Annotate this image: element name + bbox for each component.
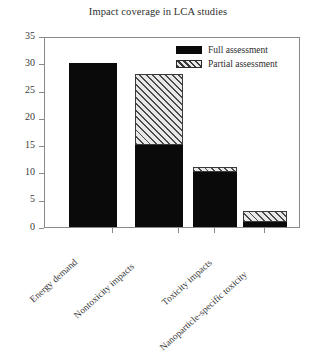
y-tick-label: 35 xyxy=(5,30,35,41)
y-tick-label: 25 xyxy=(5,84,35,95)
bar-energy-demand[interactable] xyxy=(69,63,117,227)
legend-item-full-assessment[interactable]: Full assessment xyxy=(176,43,277,57)
y-tick-label: 0 xyxy=(5,221,35,232)
legend-label: Full assessment xyxy=(208,45,268,55)
y-tick-label: 30 xyxy=(5,57,35,68)
bar-toxicity-impacts[interactable] xyxy=(193,167,237,227)
bar-nontoxicity-impacts[interactable] xyxy=(135,74,183,227)
y-tick-label: 20 xyxy=(5,111,35,122)
y-tick-label: 5 xyxy=(5,193,35,204)
x-tick-mark-1 xyxy=(112,228,113,233)
x-label-nanoparticle-specific-toxicity: Nanoparticle-specific toxicity xyxy=(158,269,249,352)
bar-segment-full[interactable] xyxy=(193,172,237,227)
x-label-nontoxicity-impacts: Nontoxicity impacts xyxy=(72,261,136,320)
legend-item-partial-assessment[interactable]: Partial assessment xyxy=(176,57,277,71)
y-tick-mark xyxy=(39,228,44,229)
x-label-toxicity-impacts: Toxicity impacts xyxy=(160,258,214,308)
bar-nanoparticle-specific-toxicity[interactable] xyxy=(243,211,287,227)
legend-label: Partial assessment xyxy=(208,59,277,69)
chart-title: Impact coverage in LCA studies xyxy=(0,6,316,17)
x-tick-mark-3 xyxy=(214,228,215,233)
legend: Full assessment Partial assessment xyxy=(176,43,277,71)
y-tick-label: 15 xyxy=(5,139,35,150)
bar-segment-partial[interactable] xyxy=(193,167,237,172)
bar-segment-full[interactable] xyxy=(135,145,183,227)
hatched-swatch-icon xyxy=(176,60,202,68)
x-tick-mark-2 xyxy=(178,228,179,233)
solid-black-swatch-icon xyxy=(176,46,202,54)
bar-segment-full[interactable] xyxy=(69,63,117,227)
bar-segment-partial[interactable] xyxy=(243,211,287,222)
y-axis: 35 30 25 20 15 10 5 0 xyxy=(0,37,44,228)
bar-segment-partial[interactable] xyxy=(135,74,183,145)
x-label-energy-demand: Energy demand xyxy=(28,257,79,304)
x-tick-mark-4 xyxy=(264,228,265,233)
bar-segment-full[interactable] xyxy=(243,222,287,228)
y-tick-label: 10 xyxy=(5,166,35,177)
